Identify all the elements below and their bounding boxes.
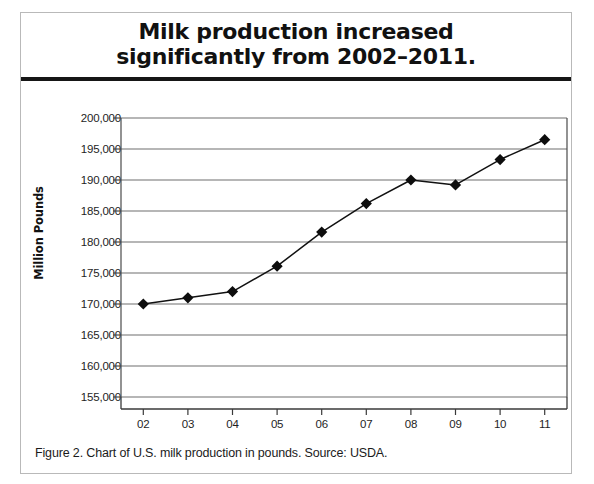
page-title: Milk production increased significantly … [116, 19, 476, 71]
data-point-marker [405, 174, 416, 185]
figure-page: Milk production increased significantly … [20, 12, 572, 474]
line-chart-plot [21, 81, 573, 431]
data-point-marker [227, 286, 238, 297]
data-series-line [143, 140, 544, 304]
title-line-2: significantly from 2002–2011. [116, 44, 476, 69]
figure-title-block: Milk production increased significantly … [21, 13, 571, 81]
data-point-marker [361, 198, 372, 209]
data-point-marker [138, 298, 149, 309]
data-point-marker [182, 292, 193, 303]
data-point-marker [539, 134, 550, 145]
figure-caption: Figure 2. Chart of U.S. milk production … [21, 446, 387, 460]
data-point-marker [450, 179, 461, 190]
chart-container: Million Pounds 155,000160,000165,000170,… [21, 81, 571, 431]
data-point-marker [495, 154, 506, 165]
title-line-1: Milk production increased [138, 19, 453, 44]
figure-caption-block: Figure 2. Chart of U.S. milk production … [21, 431, 571, 475]
